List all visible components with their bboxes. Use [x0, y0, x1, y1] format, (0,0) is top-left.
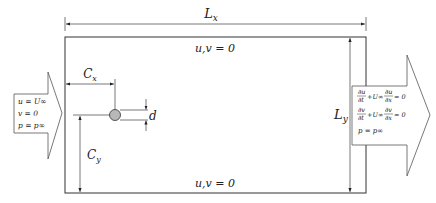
svg-text:∂v: ∂v: [358, 106, 365, 114]
lx-label: L: [203, 6, 213, 21]
svg-text:∂v: ∂v: [385, 106, 392, 114]
svg-text:∂x: ∂x: [385, 96, 392, 104]
cylinder: [110, 110, 121, 121]
inlet-bc-v: v = 0: [18, 109, 38, 118]
inlet-bc-p: p = p∞: [18, 121, 45, 130]
diameter-dimension: d: [120, 99, 157, 131]
ly-label: L: [333, 107, 343, 122]
svg-text:Cx: Cx: [83, 67, 97, 83]
bottom-wall-bc: u,v = 0: [195, 177, 235, 190]
svg-text:Ly: Ly: [333, 107, 349, 124]
d-label: d: [149, 109, 157, 123]
cy-label: C: [87, 148, 96, 162]
svg-text:+U∞: +U∞: [367, 111, 383, 119]
cx-label: C: [83, 67, 92, 81]
svg-text:Cy: Cy: [87, 148, 101, 164]
inlet-arrow: u = U∞ v = 0 p = p∞: [14, 72, 62, 159]
svg-text:Lx: Lx: [203, 6, 218, 23]
svg-text:∂t: ∂t: [358, 96, 364, 104]
outlet-bc-p: p = p∞: [358, 127, 383, 135]
outlet-arrow: ∂u ∂t +U∞ ∂u ∂x = 0 ∂v ∂t +U∞ ∂v ∂x = 0 …: [352, 55, 430, 176]
ly-dimension: Ly: [333, 38, 350, 192]
svg-text:+U∞: +U∞: [367, 93, 383, 101]
svg-text:∂u: ∂u: [358, 88, 366, 96]
lx-dimension: Lx: [65, 6, 366, 31]
svg-text:∂u: ∂u: [385, 88, 393, 96]
svg-text:∂t: ∂t: [358, 114, 364, 122]
svg-text:= 0: = 0: [394, 111, 406, 119]
cy-dimension: Cy: [73, 115, 110, 192]
top-wall-bc: u,v = 0: [195, 42, 235, 55]
cx-dimension: Cx: [66, 67, 115, 110]
inlet-bc-u: u = U∞: [18, 97, 46, 106]
svg-text:∂x: ∂x: [385, 114, 392, 122]
svg-text:= 0: = 0: [394, 93, 406, 101]
flow-domain-diagram: Lx u,v = 0 u,v = 0 Cx Cy d Ly: [0, 0, 436, 203]
